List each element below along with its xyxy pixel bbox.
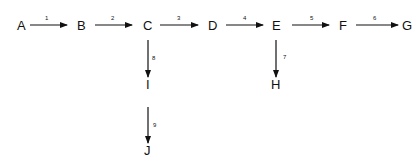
edge-i-j: 9 [148,107,157,143]
node-f: F [339,18,347,33]
node-e: E [272,18,281,33]
edge-b-c: 2 [95,15,132,25]
node-g: G [402,18,412,33]
edge-label-1: 1 [45,15,49,21]
node-j: J [144,143,151,158]
edge-d-e: 4 [226,15,263,25]
edge-label-7: 7 [283,54,287,60]
edge-label-5: 5 [310,15,314,21]
edge-a-b: 1 [30,15,67,25]
node-i: I [146,77,150,92]
node-c: C [143,18,152,33]
node-b: B [77,18,86,33]
edge-c-d: 3 [160,15,198,25]
node-h: H [271,77,280,92]
edge-label-3: 3 [177,15,181,21]
edge-label-6: 6 [373,15,377,21]
edge-f-g: 6 [356,15,398,25]
node-d: D [208,18,217,33]
edge-label-4: 4 [243,15,247,21]
edge-label-2: 2 [111,15,115,21]
flow-diagram: A B C D E F G H I J 1 2 3 4 5 6 7 8 9 [0,0,416,167]
edge-c-i: 8 [148,40,156,77]
edge-e-f: 5 [292,15,329,25]
edge-label-9: 9 [153,122,157,128]
node-a: A [17,18,26,33]
edge-e-h: 7 [276,40,287,77]
edge-label-8: 8 [152,55,156,61]
